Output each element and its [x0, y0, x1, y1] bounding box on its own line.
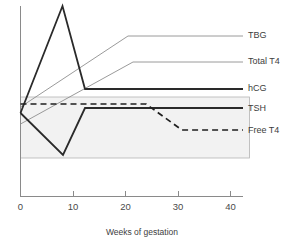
x-tick-label-10: 10	[68, 201, 79, 212]
series-label-tbg: TBG	[248, 30, 267, 40]
x-axis-title: Weeks of gestation	[106, 227, 178, 237]
chart-canvas: 0 10 20 30 40 Weeks of gestation TBG Tot…	[0, 0, 298, 252]
hormone-gestation-chart: 0 10 20 30 40 Weeks of gestation TBG Tot…	[0, 0, 298, 252]
x-tick-label-20: 20	[120, 201, 131, 212]
x-tick-label-30: 30	[173, 201, 184, 212]
x-tick-label-0: 0	[18, 201, 23, 212]
x-tick-label-40: 40	[225, 201, 236, 212]
series-label-total-t4: Total T4	[248, 56, 280, 66]
series-label-free-t4: Free T4	[248, 125, 279, 135]
series-label-tsh: TSH	[248, 103, 266, 113]
series-label-hcg: hCG	[248, 83, 267, 93]
reference-range-band	[21, 97, 250, 158]
